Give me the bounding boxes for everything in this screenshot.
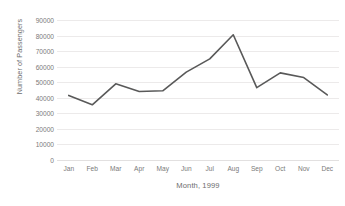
y-axis-tick-label-group: 0100002000030000400005000060000700008000…	[22, 20, 54, 160]
x-axis-tick-label: Dec	[312, 165, 342, 172]
series-line-passengers	[69, 35, 328, 105]
y-axis-tick-label: 20000	[22, 125, 54, 132]
y-axis-tick-label: 60000	[22, 63, 54, 70]
x-axis-title: Month, 1999	[57, 181, 339, 190]
y-axis-tick-label: 30000	[22, 110, 54, 117]
y-axis-tick-label: 80000	[22, 32, 54, 39]
x-axis-tick-label-group: JanFebMarAprMayJunJulAugSepOctNovDec	[57, 165, 339, 177]
gridline	[57, 160, 339, 161]
y-axis-tick-label: 0	[22, 157, 54, 164]
plot-area	[57, 20, 339, 160]
y-axis-tick-label: 10000	[22, 141, 54, 148]
y-axis-tick-label: 90000	[22, 17, 54, 24]
y-axis-tick-label: 70000	[22, 48, 54, 55]
y-axis-tick-label: 40000	[22, 94, 54, 101]
line-chart-figure: Number of Passengers 0100002000030000400…	[0, 0, 345, 206]
y-axis-tick-label: 50000	[22, 79, 54, 86]
data-series-passengers	[57, 20, 339, 160]
